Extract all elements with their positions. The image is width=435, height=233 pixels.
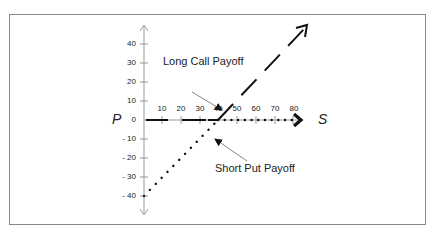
y-tick-label: 20 [114,77,136,86]
y-tick-label: - 40 [114,191,136,200]
x-tick-label: 70 [267,104,283,113]
short-put-annotation: Short Put Payoff [215,162,295,174]
x-tick-label: 60 [248,104,264,113]
x-tick-label: 30 [192,104,208,113]
y-axis-label: P [112,111,121,127]
y-tick-label: - 30 [114,172,136,181]
y-tick-label: 30 [114,58,136,67]
x-tick-label: 40 [210,104,226,113]
short-put-line [144,114,301,196]
x-tick-label: 20 [173,104,189,113]
x-tick-label: 50 [229,104,245,113]
long-call-annotation: Long Call Payoff [163,55,244,67]
y-tick-label: 40 [114,39,136,48]
x-tick-label: 10 [154,104,170,113]
y-tick-label: - 10 [114,134,136,143]
payoff-diagram [0,0,435,233]
short-put-pointer [215,139,247,161]
y-tick-label: - 20 [114,153,136,162]
x-tick-label: 80 [286,104,302,113]
x-axis-label: S [318,111,327,127]
y-tick-label: 10 [114,96,136,105]
